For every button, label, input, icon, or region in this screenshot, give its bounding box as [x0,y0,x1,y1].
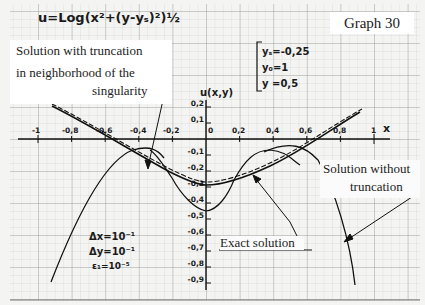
formula: u=Log(x²+(y-yₛ)²)½ [38,10,180,25]
svg-text:-1: -1 [32,126,40,135]
annotation-without-line1: Solution without [320,160,420,178]
svg-text:0,1: 0,1 [191,115,204,124]
svg-text:-0,7: -0,7 [188,243,204,252]
param-y0: y₀=1 [262,62,288,73]
annotation-without-truncation: Solution without truncation [320,160,420,198]
step-eps: ε₁=10⁻⁵ [92,261,130,271]
x-axis-label: x [383,122,390,135]
param-ys: yₛ=-0,25 [262,46,310,57]
svg-text:-0,4: -0,4 [130,126,146,135]
svg-text:-0,9: -0,9 [188,275,204,284]
svg-text:-0,5: -0,5 [188,211,204,220]
svg-text:0,4: 0,4 [266,126,279,135]
svg-text:-0,2: -0,2 [163,126,179,135]
step-dx: Δx=10⁻¹ [89,231,135,242]
annotation-truncated-line3: singularity [10,84,172,98]
svg-text:0,6: 0,6 [299,126,312,135]
svg-text:-0,8: -0,8 [62,126,78,135]
chart-canvas: -1 -0,8 -0,6 -0,4 -0,2 0 0,2 0,4 0,6 0,8… [0,0,425,305]
svg-text:-0,6: -0,6 [188,227,204,236]
param-y: y =0,5 [262,78,298,89]
y-axis-label: u(x,y) [200,87,233,98]
svg-text:-0,1: -0,1 [188,147,204,156]
svg-text:-0,2: -0,2 [188,163,204,172]
step-dy: Δy=10⁻¹ [89,246,135,257]
svg-text:0,2: 0,2 [191,99,204,108]
graph-label: Graph 30 [330,12,414,34]
svg-text:-0,8: -0,8 [188,259,204,268]
svg-text:0: 0 [208,126,213,135]
annotation-truncated: Solution with truncation in neighborhood… [10,40,172,104]
svg-text:1: 1 [371,126,376,135]
annotation-exact: Exact solution [220,236,304,250]
annotation-without-line2: truncation [320,178,420,196]
annotation-truncated-line2: in neighborhood of the [10,62,172,84]
annotation-truncated-line1: Solution with truncation [10,40,172,62]
svg-text:0,2: 0,2 [232,126,245,135]
